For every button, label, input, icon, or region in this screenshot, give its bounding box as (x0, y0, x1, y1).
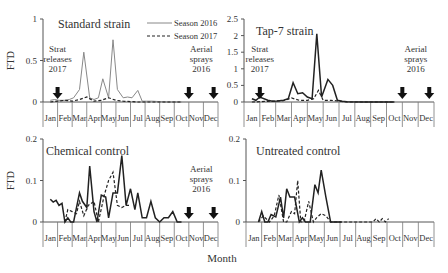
panel-title: Tap-7 strain (256, 24, 313, 38)
x-tick-label: May (309, 233, 325, 243)
x-tick-label: Jul (133, 113, 144, 123)
x-tick-label: Jul (133, 233, 144, 243)
annotation-strat: releases (43, 54, 72, 64)
x-tick-label: Apr (87, 113, 100, 123)
x-tick-label: Mar (276, 113, 290, 123)
x-tick-label: Aug (356, 233, 371, 243)
x-tick-label: Sep (372, 113, 385, 123)
panel-tap-7-strain: 00.511.522.5JanFebMarAprMayJunJulAugSepO… (227, 14, 435, 127)
series-line-season-2016 (259, 170, 342, 222)
annotation-strat: 2017 (251, 64, 270, 74)
x-tick-label: Dec (419, 113, 433, 123)
y-tick-label: 1 (33, 14, 38, 24)
x-tick-label: Feb (261, 113, 274, 123)
y-axis-label: FTD (5, 171, 16, 190)
annotation-aerial: 2016 (192, 184, 211, 194)
x-tick-label: Dec (204, 233, 218, 243)
annotation-aerial: sprays (190, 174, 213, 184)
x-tick-label: Aug (145, 113, 160, 123)
x-tick-label: Apr (294, 233, 307, 243)
annotation-aerial: 2016 (192, 64, 211, 74)
series-line-season-2016 (50, 40, 181, 102)
annotation-aerial: 2016 (407, 64, 426, 74)
x-tick-label: Jul (342, 113, 353, 123)
annotation-aerial: Aerial (190, 164, 213, 174)
y-tick-label: 0.5 (227, 80, 239, 90)
x-tick-label: Aug (145, 233, 160, 243)
x-tick-label: Sep (373, 233, 386, 243)
y-tick-label: 0.1 (26, 176, 37, 186)
annotation-strat: 2017 (49, 64, 68, 74)
x-tick-label: Mar (72, 233, 86, 243)
x-axis-label: Month (207, 252, 237, 264)
annotation-strat: Strat (49, 44, 66, 54)
annotation-aerial: sprays (404, 54, 427, 64)
panel-untreated-control: 00.10.2JanFebMarAprMayJunJulAugSepOctNov… (229, 134, 434, 247)
x-tick-label: Jan (248, 233, 260, 243)
x-tick-label: Jun (117, 113, 130, 123)
x-tick-label: Apr (87, 233, 100, 243)
y-tick-label: 0 (234, 97, 239, 107)
x-tick-label: Nov (403, 233, 418, 243)
x-tick-label: Oct (175, 233, 188, 243)
annotation-aerial: Aerial (405, 44, 428, 54)
y-tick-label: 1 (234, 64, 239, 74)
series-line-season-2016 (252, 34, 395, 102)
x-tick-label: Mar (72, 113, 86, 123)
y-tick-label: 2.5 (227, 14, 239, 24)
x-tick-label: Mar (278, 233, 292, 243)
x-tick-label: Feb (59, 233, 72, 243)
x-tick-label: Nov (189, 113, 204, 123)
annotation-strat: releases (246, 54, 275, 64)
chart-figure: 00.51JanFebMarAprMayJunJulAugSepOctNovDe… (0, 0, 448, 273)
panel-title: Standard strain (58, 17, 130, 31)
x-tick-label: Sep (161, 233, 174, 243)
x-tick-label: Feb (59, 113, 72, 123)
x-tick-label: May (101, 233, 117, 243)
legend-label: Season 2016 (174, 18, 217, 28)
panel-chemical-control: 00.10.2JanFebMarAprMayJunJulAugSepOctNov… (5, 134, 219, 247)
x-tick-label: Jan (45, 233, 57, 243)
panel-standard-strain: 00.51JanFebMarAprMayJunJulAugSepOctNovDe… (5, 14, 219, 127)
y-tick-label: 1.5 (227, 47, 239, 57)
x-tick-label: May (307, 113, 323, 123)
y-tick-label: 0 (236, 217, 241, 227)
legend-label: Season 2017 (174, 31, 217, 41)
x-tick-label: Aug (355, 113, 370, 123)
y-tick-label: 0.2 (229, 134, 240, 144)
y-tick-label: 2 (234, 31, 239, 41)
y-tick-label: 0.2 (26, 134, 37, 144)
x-tick-label: Jul (343, 233, 354, 243)
x-tick-label: Nov (189, 233, 204, 243)
x-tick-label: Jan (45, 113, 57, 123)
x-tick-label: May (101, 113, 117, 123)
x-tick-label: Oct (389, 233, 402, 243)
x-tick-label: Oct (175, 113, 188, 123)
x-tick-label: Oct (388, 113, 401, 123)
x-tick-label: Feb (263, 233, 276, 243)
x-tick-label: Apr (293, 113, 306, 123)
panel-title: Chemical control (46, 144, 130, 158)
x-tick-label: Dec (204, 113, 218, 123)
x-tick-label: Sep (161, 113, 174, 123)
x-tick-label: Jan (246, 113, 258, 123)
x-tick-label: Jun (326, 233, 339, 243)
legend: Season 2016Season 2017 (147, 18, 217, 41)
series-line-season-2016 (50, 156, 181, 222)
y-tick-label: 0.5 (26, 56, 38, 66)
y-tick-label: 0.1 (229, 176, 240, 186)
x-tick-label: Nov (403, 113, 418, 123)
y-tick-label: 0 (33, 217, 38, 227)
annotation-aerial: Aerial (190, 44, 213, 54)
annotation-aerial: sprays (190, 54, 213, 64)
y-tick-label: 0 (33, 97, 38, 107)
y-axis-label: FTD (5, 51, 16, 70)
x-tick-label: Jun (117, 233, 130, 243)
x-tick-label: Jun (325, 113, 338, 123)
annotation-strat: Strat (251, 44, 268, 54)
panel-title: Untreated control (256, 144, 341, 158)
x-tick-label: Dec (419, 233, 433, 243)
